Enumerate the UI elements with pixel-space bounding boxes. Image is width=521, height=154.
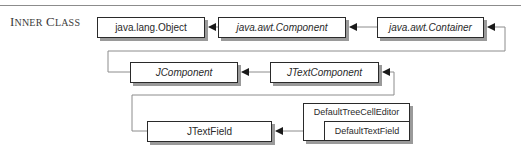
- class-box-jtextcomponent: JTextComponent: [270, 62, 379, 83]
- inner-class-name: DefaultTextField: [335, 126, 400, 136]
- outer-class-name: DefaultTreeCellEditor: [314, 107, 400, 117]
- class-name: JTextField: [187, 126, 232, 137]
- class-name: JComponent: [156, 67, 213, 78]
- class-name: java.awt.Container: [389, 22, 472, 33]
- class-name: java.awt.Component: [236, 22, 327, 33]
- class-name: java.lang.Object: [115, 22, 187, 33]
- class-name: JTextComponent: [287, 67, 362, 78]
- class-box-java-awt-container: java.awt.Container: [377, 17, 484, 38]
- class-box-defaulttextfield: DefaultTextField: [324, 121, 410, 141]
- class-box-java-lang-object: java.lang.Object: [97, 17, 205, 38]
- class-box-jcomponent: JComponent: [130, 62, 238, 83]
- class-box-jtextfield: JTextField: [147, 121, 272, 142]
- class-box-java-awt-component: java.awt.Component: [218, 17, 346, 38]
